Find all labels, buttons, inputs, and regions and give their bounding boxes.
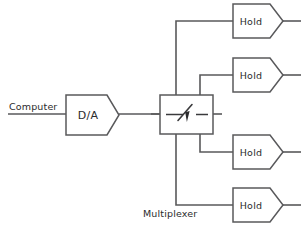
computer-label: Computer [9,101,57,112]
multiplexer-to-hold-3-wire [200,134,233,152]
hold-block-4-label: Hold [240,200,262,211]
multiplexer-to-hold-2-wire [200,75,233,95]
multiplexer-to-hold-4-wire [176,134,233,205]
diagram-canvas: Computer D/A Multiplexer Hold Hold Hold … [0,0,307,226]
da-converter-label: D/A [78,109,99,122]
multiplexer-label: Multiplexer [143,208,197,219]
hold-block-2-label: Hold [240,70,262,81]
hold-block-3-label: Hold [240,147,262,158]
multiplexer-to-hold-1-wire [176,21,233,95]
block-diagram: Computer D/A Multiplexer Hold Hold Hold … [0,0,307,226]
hold-block-1-label: Hold [240,16,262,27]
